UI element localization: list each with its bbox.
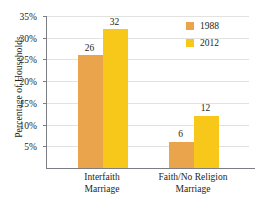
category-label-faith-no-religion-line1: Faith/No Religion — [159, 172, 228, 184]
bar-value-1988-faith-no-religion: 6 — [178, 129, 183, 139]
y-tick-label-25: 25% — [20, 55, 37, 65]
x-axis-line — [46, 168, 255, 169]
legend: 1988 2012 — [186, 20, 219, 54]
legend-swatch-2012-icon — [186, 39, 194, 47]
legend-item-1988[interactable]: 1988 — [186, 20, 219, 31]
bar-2012-faith-no-religion[interactable] — [194, 116, 219, 168]
bar-value-2012-interfaith: 32 — [110, 17, 120, 27]
legend-swatch-1988-icon — [186, 22, 194, 30]
y-tick-label-30: 30% — [20, 34, 37, 44]
bar-2012-interfaith[interactable] — [103, 29, 128, 168]
bar-value-2012-faith-no-religion: 12 — [201, 103, 211, 113]
y-tick-label-15: 15% — [20, 99, 37, 109]
gridline-35 — [47, 16, 249, 17]
y-tick-label-10: 10% — [20, 121, 37, 131]
legend-item-2012[interactable]: 2012 — [186, 37, 219, 48]
bar-1988-interfaith[interactable] — [78, 55, 103, 168]
y-tick-label-5: 5% — [24, 142, 37, 152]
category-label-interfaith-line2: Marriage — [84, 184, 119, 196]
y-tick-20: 20% — [43, 81, 47, 82]
bar-chart: Percentage of Households 35% 30% 25% 20%… — [0, 0, 255, 204]
bar-1988-faith-no-religion[interactable] — [169, 142, 194, 168]
bar-value-1988-interfaith: 26 — [85, 43, 95, 53]
y-tick-5: 5% — [43, 146, 47, 147]
category-label-faith-no-religion: Faith/No Religion Marriage — [159, 172, 228, 195]
category-label-faith-no-religion-line2: Marriage — [159, 184, 228, 196]
y-tick-label-20: 20% — [20, 77, 37, 87]
y-tick-10: 10% — [43, 125, 47, 126]
category-label-interfaith-line1: Interfaith — [84, 172, 119, 184]
legend-label-1988: 1988 — [200, 21, 219, 31]
y-tick-35: 35% — [43, 16, 47, 17]
y-tick-25: 25% — [43, 59, 47, 60]
category-label-interfaith: Interfaith Marriage — [84, 172, 119, 195]
y-tick-15: 15% — [43, 103, 47, 104]
legend-label-2012: 2012 — [200, 38, 219, 48]
y-tick-30: 30% — [43, 38, 47, 39]
y-tick-label-35: 35% — [20, 12, 37, 22]
